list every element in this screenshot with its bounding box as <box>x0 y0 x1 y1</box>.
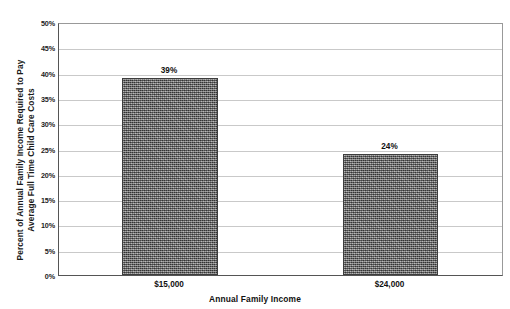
y-axis-tick-mark <box>51 175 55 176</box>
plot-area <box>58 23 503 276</box>
gridline <box>59 75 502 76</box>
gridline <box>59 49 502 50</box>
bar <box>122 78 218 275</box>
bar <box>343 154 438 275</box>
bar-chart: Percent of Annual Family Income Required… <box>0 0 510 309</box>
y-axis-tick-mark <box>51 74 55 75</box>
y-axis-tick-mark <box>51 225 55 226</box>
y-axis-tick-mark <box>51 99 55 100</box>
y-axis-tick-mark <box>51 251 55 252</box>
x-axis-tick-label: $15,000 <box>154 280 184 289</box>
y-axis-tick-mark <box>51 150 55 151</box>
y-axis-tick-mark <box>51 200 55 201</box>
y-axis-tick-marks <box>0 23 60 276</box>
x-axis-tick-label: $24,000 <box>375 280 405 289</box>
y-axis-tick-mark <box>51 124 55 125</box>
bar-value-label: 24% <box>381 142 397 151</box>
x-axis-title: Annual Family Income <box>0 294 510 304</box>
bar-value-label: 39% <box>161 66 177 75</box>
y-axis-tick-mark <box>51 48 55 49</box>
